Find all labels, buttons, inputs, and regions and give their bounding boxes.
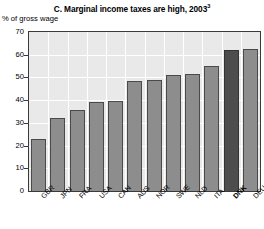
y-axis-tick-mark (24, 77, 28, 78)
plot-area (28, 31, 261, 192)
bar-dnk (224, 50, 239, 191)
bar-fra (70, 110, 85, 191)
chart-title-footnote-marker: 3 (207, 3, 210, 9)
y-axis-tick-label-10: 10 (0, 164, 24, 172)
bar-gbr (31, 139, 46, 191)
y-axis-tick-label-60: 60 (0, 51, 24, 59)
y-axis-tick-label-30: 30 (0, 119, 24, 127)
bar-jpn (50, 118, 65, 191)
y-axis-unit-label: % of gross wage (2, 13, 58, 24)
bar-can (108, 101, 123, 191)
marginal-income-taxes-bar-chart: C. Marginal income taxes are high, 20033… (0, 0, 264, 229)
y-axis-tick-mark (24, 123, 28, 124)
y-axis-tick-label-0: 0 (0, 187, 24, 195)
bars-group (29, 32, 260, 191)
bar-swe (166, 75, 181, 191)
y-axis-tick-mark (24, 55, 28, 56)
bar-nor (147, 80, 162, 191)
y-axis-tick-label-50: 50 (0, 73, 24, 81)
bar-usa (89, 102, 104, 191)
y-axis-tick-label-20: 20 (0, 142, 24, 150)
y-axis-tick-label-40: 40 (0, 96, 24, 104)
bar-deu (243, 49, 258, 191)
bar-nld (185, 74, 200, 191)
y-axis-tick-label-70: 70 (0, 28, 24, 36)
y-axis-tick-mark (24, 168, 28, 169)
bar-ita (204, 66, 219, 191)
y-axis-tick-mark (24, 100, 28, 101)
bar-aus (127, 81, 142, 191)
y-axis-tick-mark (24, 146, 28, 147)
chart-title-text: C. Marginal income taxes are high, 2003 (54, 4, 207, 14)
